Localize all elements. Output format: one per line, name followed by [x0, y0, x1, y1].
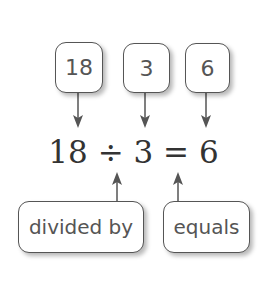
- arrow-6-down-icon: [201, 93, 211, 128]
- equals-label: equals: [174, 215, 240, 239]
- label-box-equals: equals: [163, 201, 250, 253]
- label-box-quotient: 6: [185, 43, 230, 93]
- divided-by-label: divided by: [29, 215, 133, 239]
- arrow-18-down-icon: [73, 93, 83, 128]
- label-box-dividend: 18: [55, 42, 103, 93]
- dividend-label: 18: [65, 55, 93, 80]
- label-box-divided-by: divided by: [18, 201, 144, 253]
- arrow-equals-up-icon: [173, 172, 183, 201]
- arrow-3-down-icon: [140, 93, 150, 128]
- divisor-label: 3: [140, 56, 154, 81]
- division-equation: 18 ÷ 3 = 6: [0, 134, 267, 170]
- quotient-label: 6: [201, 56, 215, 81]
- arrow-divided-by-up-icon: [112, 172, 122, 201]
- label-box-divisor: 3: [123, 43, 170, 93]
